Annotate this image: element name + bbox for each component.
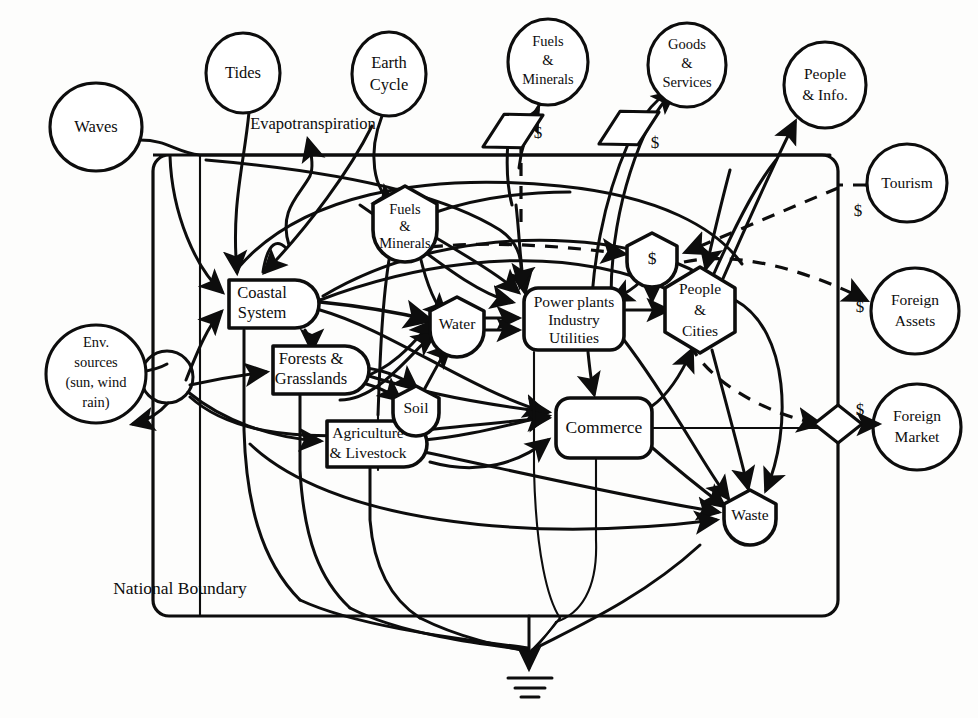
source-env-label-1: Env. bbox=[83, 334, 109, 350]
source-people-info[interactable]: People & Info. bbox=[784, 42, 866, 128]
component-fuels-minerals-storage[interactable]: Fuels & Minerals bbox=[373, 186, 437, 262]
source-waves-label: Waves bbox=[74, 117, 118, 136]
fuels-minerals-int-label-3: Minerals bbox=[379, 235, 431, 251]
component-power-plants[interactable]: Power plants Industry Utilities bbox=[524, 288, 624, 350]
source-tourism-label: Tourism bbox=[881, 174, 932, 191]
component-forests-grasslands[interactable]: Forests & Grasslands bbox=[273, 346, 369, 394]
source-foreign-market[interactable]: Foreign Market bbox=[873, 384, 961, 470]
source-env-label-4: rain) bbox=[82, 394, 110, 411]
energy-systems-diagram: Waves Tides Earth Cycle Fuels & Minerals… bbox=[0, 0, 978, 718]
people-cities-label-1: People bbox=[679, 280, 721, 297]
source-goods-services-label-2: & bbox=[681, 55, 693, 71]
tourism-to-money-storage bbox=[686, 188, 838, 252]
source-tides[interactable]: Tides bbox=[206, 33, 280, 113]
agriculture-label-2: & Livestock bbox=[329, 444, 406, 461]
people-cities-label-3: Cities bbox=[682, 322, 718, 339]
source-foreign-assets-label-2: Assets bbox=[895, 312, 935, 329]
component-money-storage[interactable]: $ bbox=[627, 233, 677, 287]
water-label: Water bbox=[439, 315, 476, 332]
transaction-goods-export-money-label: $ bbox=[651, 133, 660, 152]
money-storage-label: $ bbox=[648, 248, 657, 268]
component-people-cities[interactable]: People & Cities bbox=[665, 267, 735, 353]
waste-label: Waste bbox=[731, 506, 769, 523]
money-label-foreign-assets: $ bbox=[856, 297, 865, 316]
source-env-label-3: (sun, wind bbox=[65, 374, 127, 391]
heat-sink-ground-icon bbox=[508, 678, 552, 697]
source-foreign-market-label-1: Foreign bbox=[893, 407, 941, 424]
source-people-info-label-2: & Info. bbox=[802, 86, 848, 103]
source-env-label-2: sources bbox=[74, 354, 118, 370]
component-coastal-system[interactable]: Coastal System bbox=[229, 280, 319, 328]
source-foreign-market-label-2: Market bbox=[895, 428, 940, 445]
component-water-storage[interactable]: Water bbox=[430, 297, 484, 357]
soil-label: Soil bbox=[404, 399, 429, 416]
component-waste-storage[interactable]: Waste bbox=[724, 490, 776, 545]
national-boundary-label: National Boundary bbox=[113, 578, 247, 598]
fuels-minerals-int-label-1: Fuels bbox=[389, 201, 421, 217]
money-labels: $ $ bbox=[854, 201, 865, 316]
source-fuels-minerals-label-2: & bbox=[542, 52, 554, 68]
source-earth-cycle-label-1: Earth bbox=[371, 53, 407, 72]
coastal-system-label-1: Coastal bbox=[237, 283, 287, 302]
coastal-system-label-2: System bbox=[238, 303, 287, 322]
transaction-fuels-import-money-label: $ bbox=[534, 123, 543, 142]
money-label-tourism: $ bbox=[854, 201, 863, 220]
evapotranspiration-label: Evapotranspiration bbox=[250, 114, 376, 133]
source-goods-services-label-1: Goods bbox=[668, 36, 706, 52]
people-to-foreign-market bbox=[690, 345, 820, 424]
power-plants-label-2: Industry bbox=[548, 311, 600, 328]
source-earth-cycle[interactable]: Earth Cycle bbox=[352, 32, 426, 116]
people-cities-label-2: & bbox=[694, 301, 706, 318]
source-fuels-minerals-label-3: Minerals bbox=[522, 71, 574, 87]
source-earth-cycle-label-2: Cycle bbox=[370, 75, 409, 94]
commerce-label: Commerce bbox=[566, 417, 643, 437]
source-fuels-minerals-external[interactable]: Fuels & Minerals bbox=[508, 19, 588, 105]
source-goods-services[interactable]: Goods & Services bbox=[648, 23, 726, 107]
source-people-info-label-1: People bbox=[804, 65, 846, 82]
agriculture-label-1: Agriculture bbox=[332, 424, 404, 441]
fuels-minerals-int-label-2: & bbox=[399, 218, 411, 234]
source-fuels-minerals-label-1: Fuels bbox=[532, 33, 564, 49]
source-goods-services-label-3: Services bbox=[662, 74, 711, 90]
source-tourism[interactable]: Tourism bbox=[867, 144, 947, 222]
source-foreign-assets[interactable]: Foreign Assets bbox=[871, 268, 959, 354]
forests-grasslands-label-1: Forests & bbox=[279, 349, 344, 368]
diagram-canvas: Waves Tides Earth Cycle Fuels & Minerals… bbox=[0, 0, 978, 718]
component-commerce[interactable]: Commerce bbox=[556, 398, 652, 458]
source-env-sources[interactable]: Env. sources (sun, wind rain) bbox=[46, 325, 146, 423]
power-plants-label-1: Power plants bbox=[534, 293, 615, 310]
national-boundary-rect bbox=[153, 155, 838, 616]
source-waves[interactable]: Waves bbox=[50, 83, 142, 171]
forests-grasslands-label-2: Grasslands bbox=[275, 369, 347, 388]
internal-component-symbols: Coastal System Forests & Grasslands Agri… bbox=[229, 186, 776, 545]
transaction-foreign-market-money-label: $ bbox=[856, 400, 865, 419]
source-foreign-assets-label-1: Foreign bbox=[891, 291, 939, 308]
component-soil-storage[interactable]: Soil bbox=[393, 386, 439, 436]
source-tides-label: Tides bbox=[225, 63, 261, 82]
power-plants-label-3: Utilities bbox=[549, 329, 599, 346]
